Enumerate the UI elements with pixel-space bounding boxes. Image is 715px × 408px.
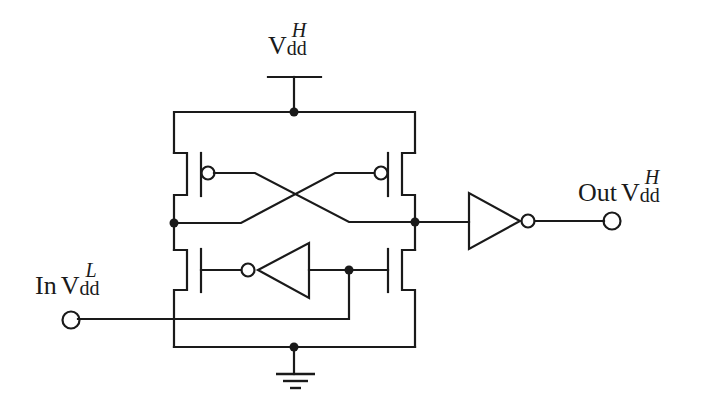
circuit-diagram: V H dd In V L dd Out V H dd [0,0,715,408]
junction-left-mid [170,219,179,228]
label-prefix: Out [578,178,617,207]
top-rail [174,112,415,153]
label-v: V [621,178,640,207]
ground-icon [276,347,315,388]
label-prefix: In [35,271,57,300]
vdd-high-label: V H dd [268,28,311,59]
junction-top [290,108,299,117]
nmos-right [309,249,415,347]
input-inverter [242,243,310,298]
label-sub: dd [640,185,660,205]
vdd-supply-symbol [268,77,321,112]
pmos-right [375,153,416,250]
output-inverter [469,193,535,249]
output-terminal [604,213,621,230]
output-label: Out V H dd [578,175,664,206]
cross-wire-b [174,173,374,223]
label-v: V [268,31,287,60]
label-sub: dd [287,38,307,58]
label-sub: dd [79,278,99,298]
label-v: V [61,271,80,300]
input-label: In V L dd [35,268,103,299]
pmos-left [174,153,215,250]
cross-wire-a [214,173,415,222]
nmos-left [174,249,241,347]
